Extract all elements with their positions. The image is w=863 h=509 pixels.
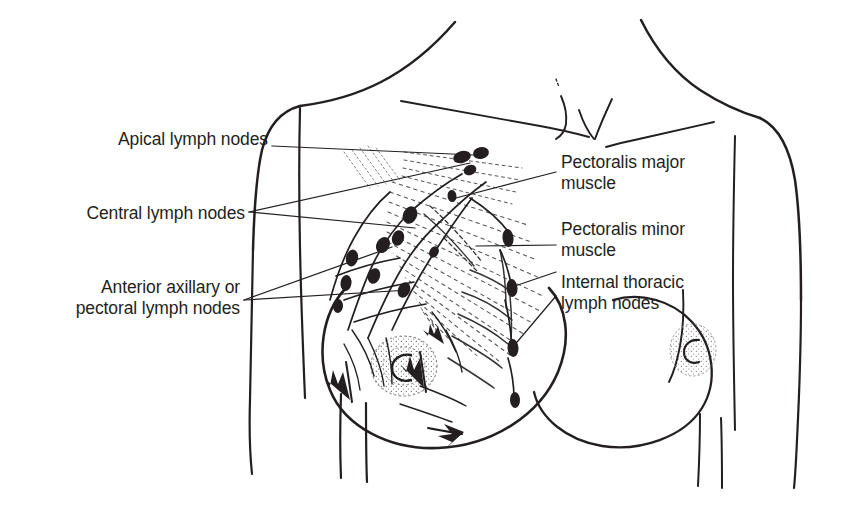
right-breast [534,290,722,488]
label-anterior-axillary-line1: Anterior axillary or [101,277,240,298]
leader-internal-thoracic-b [512,296,556,348]
chest-wall-digitations [448,250,514,388]
anatomy-group [244,20,801,488]
label-central-lymph-nodes: Central lymph nodes [86,203,245,224]
left-areola [371,336,437,396]
label-pectoralis-minor-line2: muscle [561,240,616,261]
central-lymph-node-group [373,204,420,256]
leader-internal-thoracic-a [509,272,556,288]
leader-pec-major [452,172,556,199]
pectoralis-minor-muscle [424,206,482,272]
label-apical-lymph-nodes: Apical lymph nodes [118,129,268,150]
right-areola [670,324,716,376]
label-anterior-axillary-line2: pectoral lymph nodes [76,298,240,319]
leader-pec-minor [476,245,556,246]
leader-central-a [249,212,415,228]
clavicle-and-sternal-notch [401,79,714,147]
label-internal-thoracic-line2: lymph nodes [561,293,659,314]
breast-lymphatic-drainage-figure [0,0,863,509]
label-pectoralis-major-line1: Pectoralis major [561,152,685,173]
label-internal-thoracic-line1: Internal thoracic [561,272,684,293]
leader-central-b [249,163,470,212]
label-pectoralis-major-line2: muscle [561,173,616,194]
label-pectoralis-minor-line1: Pectoralis minor [561,219,685,240]
body-outline [250,20,801,488]
